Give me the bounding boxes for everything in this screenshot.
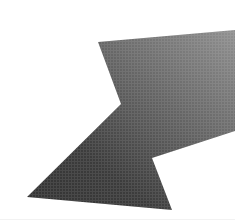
arrow-shape-texture-overlay bbox=[27, 30, 235, 210]
arrow-body-group bbox=[27, 30, 235, 210]
image-canvas bbox=[0, 0, 235, 223]
arrow-graphic bbox=[0, 0, 235, 223]
faint-horizontal-rule bbox=[0, 219, 235, 220]
